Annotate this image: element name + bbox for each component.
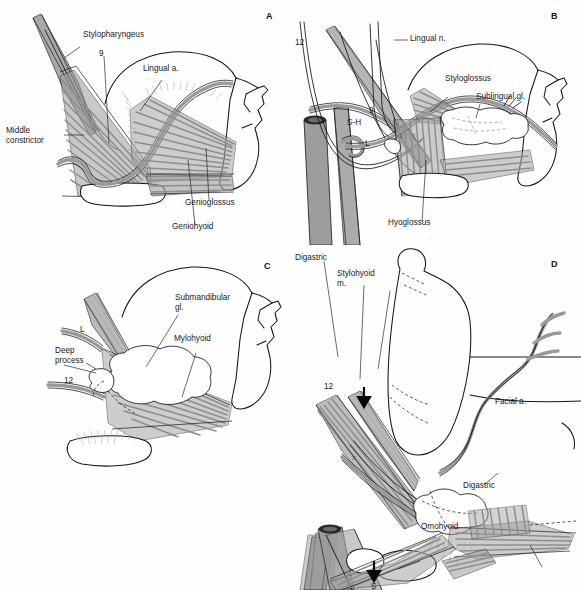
label-nerve-12: 12 — [64, 376, 73, 385]
label-nerve-12: 12 — [324, 382, 333, 391]
label-lingual-l: L — [80, 325, 85, 334]
panel-c-drawing — [0, 245, 290, 520]
label-lingual-nerve: Lingual n. — [410, 34, 446, 43]
label-nerve-9: 9 — [369, 106, 374, 115]
label-submandibular-gland-line1: Submandibular — [175, 293, 230, 302]
panel-d-drawing — [290, 245, 581, 590]
label-geniohyoid: Geniohyoid — [172, 222, 213, 231]
label-middle-constrictor-line2: constrictor — [6, 136, 44, 145]
label-nerve-12: 12 — [295, 38, 304, 47]
label-marker-s: S — [371, 582, 376, 590]
label-nerve-9: 9 — [99, 49, 104, 58]
label-deep-process-line2: process — [55, 356, 84, 365]
panel-a-drawing — [0, 0, 290, 245]
label-submandibular-gland-line2: gl. — [175, 303, 184, 312]
label-stylopharyngeus: Stylopharyngeus — [83, 30, 144, 39]
panel-letter-d: D — [551, 259, 558, 269]
label-stylohyoid-sh: S-H — [347, 118, 361, 127]
label-stylohyoid-line2: m. — [337, 279, 346, 288]
label-genioglossus: Genioglossus — [185, 198, 235, 207]
label-marker-x: x — [352, 453, 356, 462]
label-middle-constrictor-line1: Middle — [6, 126, 30, 135]
panel-b: B 12 Lingual n. Styloglossus Sublingual … — [290, 0, 581, 245]
label-lingual-l: L — [365, 139, 370, 148]
label-styloglossus: Styloglossus — [445, 74, 491, 83]
label-digastric-top: Digastric — [295, 253, 327, 262]
label-digastric-bottom: Digastric — [463, 481, 495, 490]
label-lingual-artery: Lingual a. — [143, 64, 179, 73]
label-stylohyoid-line1: Stylohyoid — [337, 269, 375, 278]
panel-d: D Digastric Stylohyoid m. 12 Facial a. D… — [290, 245, 581, 590]
label-sublingual-gland: Sublingual gl. — [476, 92, 525, 101]
label-deep-process-line1: Deep — [55, 346, 75, 355]
label-hyoglossus: Hyoglossus — [388, 218, 430, 227]
label-omohyoid: Omohyoid — [421, 522, 458, 531]
anatomical-figure: A Stylopharyngeus 9 Lingual a. Middle co… — [0, 0, 581, 590]
panel-letter-b: B — [551, 11, 558, 21]
panel-c: C Submandibular gl. Mylohyoid Deep proce… — [0, 245, 290, 520]
panel-letter-a: A — [266, 11, 273, 21]
label-mylohyoid: Mylohyoid — [174, 334, 211, 343]
panel-letter-c: C — [264, 261, 271, 271]
panel-a: A Stylopharyngeus 9 Lingual a. Middle co… — [0, 0, 290, 245]
label-facial-artery: Facial a. — [495, 397, 526, 406]
